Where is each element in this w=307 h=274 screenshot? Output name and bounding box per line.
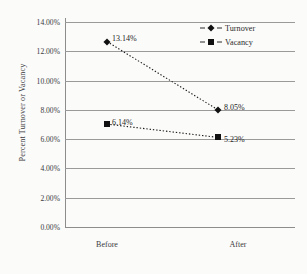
square-marker-icon (200, 37, 222, 47)
vacancy-after-label: 5.23% (224, 135, 245, 144)
legend-label-turnover: Turnover (225, 24, 255, 33)
y-tick-label-12: 12.00% (37, 47, 60, 56)
y-tick-label-4: 4.00% (40, 164, 60, 173)
gridline-8: 8.00% (65, 110, 295, 111)
chart-screenshot: Percent Turnover or Vacancy 14.00% 12.00… (0, 0, 307, 274)
turnover-after-label: 8.05% (224, 103, 245, 112)
chart-legend: Turnover Vacancy (200, 21, 295, 49)
x-axis-label-after: After (230, 240, 247, 249)
y-tick-label-0: 0.00% (40, 223, 60, 232)
plot-area: 14.00% 12.00% 10.00% 8.00% 6.00% 4.00% 2… (65, 22, 295, 227)
y-tick-label-6: 6.00% (40, 135, 60, 144)
gridline-6: 6.00% (65, 139, 295, 140)
gridline-2: 2.00% (65, 198, 295, 199)
x-axis-label-before: Before (96, 240, 118, 249)
gridline-0: 0.00% (65, 227, 295, 228)
gridline-4: 4.00% (65, 168, 295, 169)
y-axis-title: Percent Turnover or Vacancy (18, 23, 27, 203)
legend-item-vacancy[interactable]: Vacancy (200, 35, 295, 49)
vacancy-before-marker (104, 121, 110, 127)
turnover-before-label: 13.14% (112, 34, 137, 43)
legend-label-vacancy: Vacancy (225, 38, 253, 47)
vacancy-after-marker (215, 134, 221, 140)
gridline-12: 12.00% (65, 51, 295, 52)
y-tick-label-8: 8.00% (40, 105, 60, 114)
y-axis-line (65, 18, 66, 227)
legend-item-turnover[interactable]: Turnover (200, 21, 295, 35)
vacancy-before-label: 6.14% (112, 118, 133, 127)
gridline-10: 10.00% (65, 81, 295, 82)
diamond-marker-icon (200, 23, 222, 33)
y-tick-label-2: 2.00% (40, 193, 60, 202)
y-tick-label-10: 10.00% (37, 76, 60, 85)
y-tick-label-14: 14.00% (37, 18, 60, 27)
